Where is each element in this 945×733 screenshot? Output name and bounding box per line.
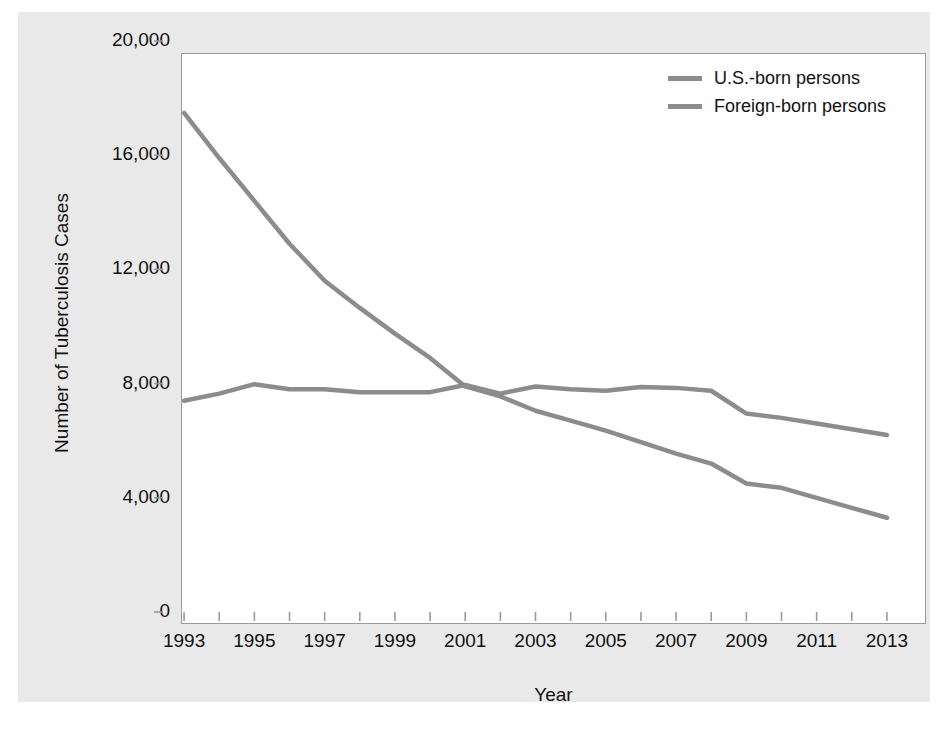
x-tick-label: 1995 [214,630,294,652]
legend-item: U.S.-born persons [668,64,886,92]
x-tick-label: 2001 [425,630,505,652]
y-tick-label: 4,000 [50,486,170,508]
legend-label: Foreign-born persons [714,96,886,117]
x-axis-title: Year [181,684,926,706]
chart-panel: Number of Tuberculosis Cases Year 04,000… [18,12,930,702]
x-tick-label: 2011 [777,630,857,652]
x-tick-label: 2013 [847,630,927,652]
x-tick-label: 2009 [706,630,786,652]
plot-area [181,53,926,624]
y-tick-label: 0 [50,600,170,622]
legend-line-swatch-icon [668,104,702,109]
legend-label: U.S.-born persons [714,68,860,89]
figure: Number of Tuberculosis Cases Year 04,000… [0,0,945,733]
x-tick-label: 1999 [355,630,435,652]
legend-item: Foreign-born persons [668,92,886,120]
y-tick-label: 20,000 [50,29,170,51]
x-tick-label: 1993 [144,630,224,652]
y-tick-label: 12,000 [50,257,170,279]
x-tick-label: 2005 [566,630,646,652]
legend-line-swatch-icon [668,76,702,81]
y-tick-label: 16,000 [50,143,170,165]
x-tick-label: 2003 [496,630,576,652]
x-tick-label: 1997 [285,630,365,652]
x-tick-label: 2007 [636,630,716,652]
legend: U.S.-born personsForeign-born persons [668,64,886,120]
y-tick-label: 8,000 [50,372,170,394]
